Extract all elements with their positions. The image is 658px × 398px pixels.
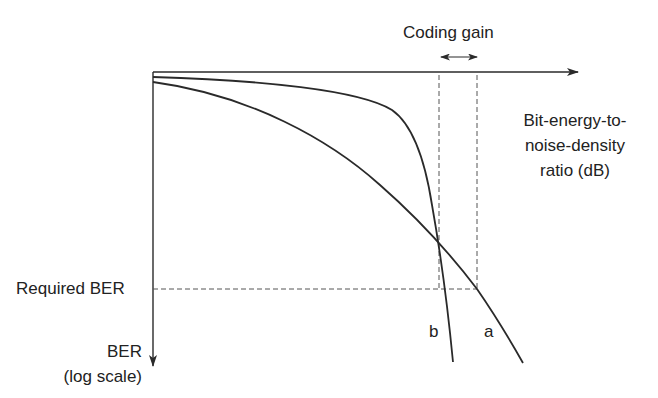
curve-b	[153, 77, 453, 362]
curve-a-label: a	[484, 322, 493, 342]
curve-b-label: b	[429, 322, 438, 342]
x-axis-label-line2: noise-density	[500, 133, 650, 158]
curve-a	[153, 82, 523, 363]
required-ber-label: Required BER	[16, 279, 125, 299]
y-axis-label-line1: BER	[30, 339, 142, 364]
x-axis-label-line1: Bit-energy-to-	[500, 108, 650, 133]
x-axis-label: Bit-energy-to- noise-density ratio (dB)	[500, 108, 650, 183]
y-axis-label-line2: (log scale)	[30, 364, 142, 389]
coding-gain-label: Coding gain	[403, 23, 494, 43]
x-axis-label-line3: ratio (dB)	[500, 158, 650, 183]
y-axis-label: BER (log scale)	[30, 339, 142, 389]
